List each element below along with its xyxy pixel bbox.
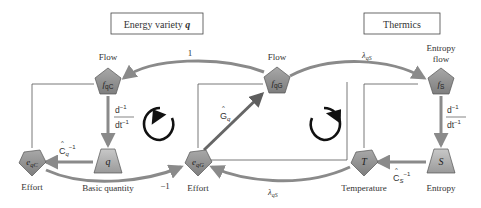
label-entropy: Entropy: [427, 183, 456, 193]
label-temperature: Temperature: [341, 183, 386, 193]
connector-lines: [32, 82, 418, 160]
svg-text:S: S: [439, 156, 444, 167]
cycle-right-clockwise-icon: [311, 104, 348, 140]
svg-text:Thermics: Thermics: [383, 19, 421, 30]
arrow-fqG-to-fS: [290, 62, 424, 78]
label-flow-left: Flow: [99, 52, 118, 62]
node-fS: fS: [428, 68, 454, 94]
node-S: S: [427, 149, 455, 173]
edge-label-lambda-top: λqS: [361, 50, 372, 61]
label-effort-left: Effort: [21, 182, 43, 192]
edge-label-C-hat-S-inv: ^ CS−1: [393, 167, 411, 184]
label-flow-middle: Flow: [268, 52, 287, 62]
cycle-left-counterclockwise-icon: [144, 105, 173, 140]
svg-text:d−1: d−1: [115, 104, 127, 115]
edge-label-1: 1: [188, 48, 193, 58]
edge-label-minus1: −1: [160, 181, 170, 191]
svg-text:Gq: Gq: [220, 111, 231, 122]
edge-label-G-hat-q: ^ Gq: [220, 105, 231, 122]
svg-text:dt−1: dt−1: [447, 119, 462, 130]
edge-label-d-over-dt-left: d−1 dt−1: [114, 104, 134, 130]
svg-text:dt−1: dt−1: [115, 119, 130, 130]
arrow-T-to-eqG: [212, 167, 350, 181]
edge-label-d-over-dt-right: d−1 dt−1: [446, 104, 466, 130]
arrow-eqG-to-fqG: [204, 94, 262, 150]
arrow-fqG-to-fqC: [124, 61, 264, 78]
node-eqG: eqG: [185, 150, 212, 176]
node-q: q: [94, 149, 122, 173]
label-effort-middle: Effort: [187, 183, 209, 193]
label-entropy-flow-1: Entropy: [427, 43, 456, 53]
svg-text:Cq−1: Cq−1: [59, 144, 76, 157]
label-basic-quantity: Basic quantity: [82, 183, 134, 193]
energy-diagram: Energy variety q Thermics: [0, 0, 481, 208]
svg-text:CS−1: CS−1: [393, 171, 411, 184]
node-fqG: fqG: [264, 67, 290, 93]
svg-text:Energy variety q: Energy variety q: [124, 19, 190, 30]
edge-label-lambda-bottom: λqS: [267, 187, 278, 198]
svg-text:d−1: d−1: [447, 104, 459, 115]
label-entropy-flow-2: flow: [433, 54, 450, 64]
node-fqC: fqC: [95, 68, 121, 94]
svg-text:q: q: [106, 156, 111, 167]
edge-label-C-hat-q-inv: ^ Cq−1: [59, 140, 76, 157]
node-T: T: [351, 150, 378, 176]
title-box-thermics: Thermics: [364, 13, 440, 34]
title-box-energy-variety: Energy variety q: [111, 13, 203, 34]
node-eqC: eqC: [19, 150, 46, 176]
